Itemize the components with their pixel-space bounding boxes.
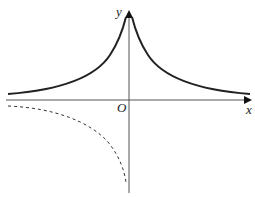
y-axis-arrow-icon xyxy=(125,10,133,18)
solid-curve-left xyxy=(8,17,126,94)
function-graph: y x O xyxy=(0,0,255,197)
y-axis-label: y xyxy=(114,4,122,19)
solid-curve-right xyxy=(132,17,250,94)
origin-label: O xyxy=(117,100,127,115)
x-axis-label: x xyxy=(245,102,252,117)
dashed-curve xyxy=(8,106,126,182)
